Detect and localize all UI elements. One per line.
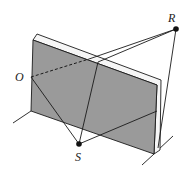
line-R-to-edge-1 xyxy=(89,29,176,59)
label-R: R xyxy=(168,12,175,24)
diagram-canvas: O R S xyxy=(0,0,195,181)
line-R-to-edge-2 xyxy=(98,29,176,62)
ground-line-left xyxy=(13,111,31,123)
label-O: O xyxy=(15,71,24,83)
point-R xyxy=(173,26,179,32)
geometry-figure xyxy=(0,0,195,181)
point-S xyxy=(76,141,82,147)
label-S: S xyxy=(75,151,81,163)
ground-line-bottom-right xyxy=(142,154,154,165)
